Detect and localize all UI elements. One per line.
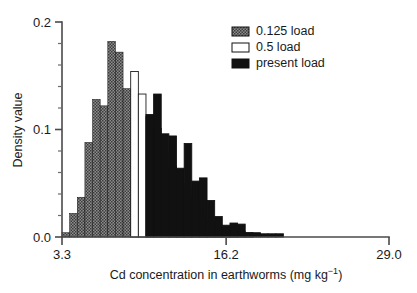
bar [100, 106, 108, 237]
bar [184, 143, 192, 237]
histogram-figure: 0.00.10.23.316.229.0 Density value Cd co… [0, 0, 417, 293]
x-tick-label: 3.3 [53, 247, 71, 262]
bar [154, 94, 162, 237]
y-tick-label: 0.1 [33, 122, 51, 137]
bar [230, 223, 238, 237]
bar [207, 200, 215, 237]
bar [222, 225, 230, 237]
bar [108, 41, 116, 237]
y-tick-label: 0.2 [33, 15, 51, 30]
bar [77, 197, 85, 237]
chart-svg: 0.00.10.23.316.229.0 Density value Cd co… [0, 0, 417, 293]
bar [131, 71, 139, 237]
bar [192, 181, 200, 237]
legend-swatch-checkered [232, 27, 249, 36]
x-tick-label: 16.2 [213, 247, 238, 262]
bar [115, 52, 123, 237]
x-tick-label: 29.0 [376, 247, 401, 262]
legend-swatch-solid [232, 59, 249, 68]
bar [93, 99, 101, 237]
bar [138, 94, 146, 237]
bar [85, 142, 93, 237]
legend-swatch-open [232, 43, 249, 52]
legend-label-2: present load [256, 56, 325, 70]
x-axis-label: Cd concentration in earthworms (mg kg−1) [110, 266, 343, 282]
bar [123, 89, 131, 237]
bar [161, 134, 169, 237]
legend-label-0: 0.125 load [256, 24, 314, 38]
bar [238, 224, 246, 237]
bar [199, 178, 207, 237]
y-axis-label: Density value [11, 92, 25, 167]
bar [215, 217, 223, 237]
bar [169, 136, 177, 237]
bar [146, 114, 154, 237]
y-tick-label: 0.0 [33, 230, 51, 245]
legend-label-1: 0.5 load [256, 40, 301, 54]
bar [70, 213, 78, 237]
bar [177, 168, 185, 237]
